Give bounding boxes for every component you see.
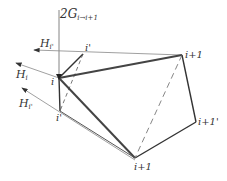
- edge-diagonal-dashed: [135, 55, 182, 158]
- h-i-prime-top-arrow: [34, 50, 182, 55]
- label-node-iplus1-prime: i+1': [198, 116, 219, 127]
- edge-iplus1-top-iplus1prime: [182, 55, 196, 122]
- label-node-iplus1-bottom: i+1: [134, 161, 152, 172]
- label-node-iprime-top: i': [85, 42, 91, 53]
- label-node-i: i: [51, 76, 54, 87]
- label-2g: 2Gi→i+1: [59, 7, 98, 22]
- label-node-iprime-bottom: i': [56, 112, 62, 123]
- edge-i-iplus1-top: [59, 55, 182, 78]
- diagram-canvas: 2Gi→i+1 Hi' Hi Hi' i i' i' i+1 i+1' i+1: [0, 0, 227, 181]
- label-h-i-prime-top: Hi': [39, 37, 54, 51]
- edge-iplus1prime-iplus1-bottom: [135, 122, 196, 158]
- edge-i-iprime-bottom: [59, 78, 60, 111]
- label-h-i-prime-bottom: Hi': [18, 97, 33, 111]
- label-h-i: Hi: [15, 68, 28, 82]
- label-node-iplus1-top: i+1: [185, 49, 203, 60]
